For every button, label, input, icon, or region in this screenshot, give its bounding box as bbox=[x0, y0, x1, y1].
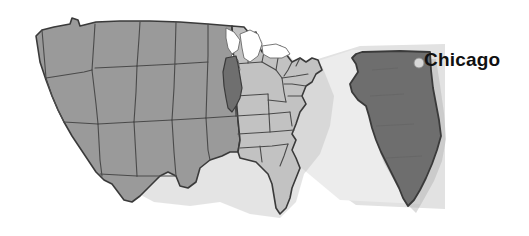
city-dot-marker bbox=[414, 58, 424, 68]
us-map-figure: Chicago bbox=[0, 0, 529, 236]
chicago-label: Chicago bbox=[424, 50, 500, 69]
map-svg bbox=[0, 0, 529, 236]
